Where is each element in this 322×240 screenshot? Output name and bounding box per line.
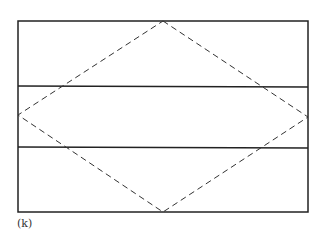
lower-horizontal-line [18, 147, 308, 148]
diagram-canvas [0, 0, 322, 240]
dashed-diamond [18, 21, 308, 212]
figure-caption: (k) [17, 217, 32, 230]
outer-rectangle [18, 21, 308, 212]
